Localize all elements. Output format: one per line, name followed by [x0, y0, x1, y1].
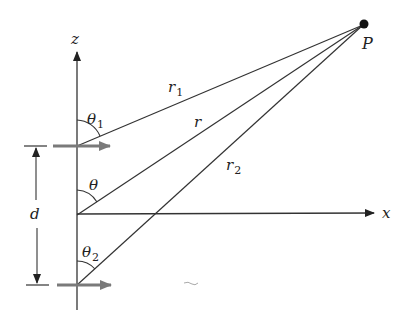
point-p-label: P: [361, 34, 373, 53]
smudge-mark: [184, 282, 198, 285]
two-dipole-geometry-diagram: z x P r1 r r2 θ1 θ θ2 d: [0, 0, 416, 331]
x-axis-label: x: [382, 204, 391, 222]
r2-label: r2: [226, 156, 241, 177]
theta1-label: θ1: [87, 110, 104, 131]
point-p: [360, 20, 369, 29]
theta-label: θ: [89, 176, 98, 194]
ray-r1: [77, 25, 363, 146]
theta2-label: θ2: [82, 243, 99, 264]
separation-label: d: [30, 205, 40, 223]
z-axis-label: z: [70, 30, 79, 48]
r1-label: r1: [168, 78, 183, 99]
ray-r2: [77, 25, 363, 285]
r-label: r: [194, 113, 202, 131]
x-axis: [77, 213, 374, 214]
ray-r: [77, 25, 363, 215]
